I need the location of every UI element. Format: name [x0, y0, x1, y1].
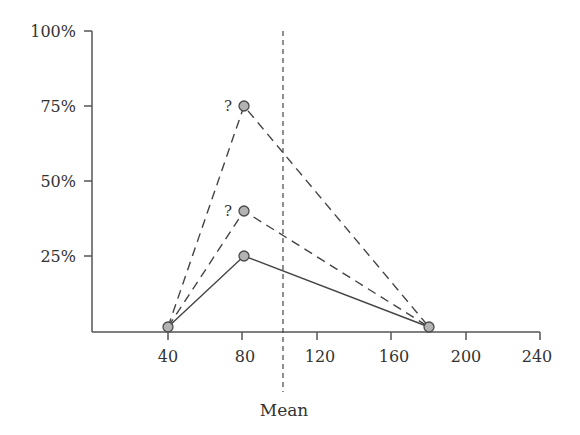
chart: 100% 75% 50% 25% 40 80 120 160 200 240 M… — [0, 0, 580, 435]
y-tick-25: 25% — [40, 247, 76, 266]
x-axis: 40 80 120 160 200 240 — [92, 332, 552, 366]
x-tick-240: 240 — [522, 347, 553, 366]
x-tick-80: 80 — [235, 347, 255, 366]
data-point — [239, 101, 249, 111]
data-point — [239, 251, 249, 261]
x-tick-160: 160 — [379, 347, 410, 366]
x-tick-120: 120 — [305, 347, 336, 366]
y-tick-75: 75% — [40, 97, 76, 116]
x-tick-40: 40 — [158, 347, 178, 366]
mean-label: Mean — [260, 400, 309, 420]
series-dashed-75 — [168, 106, 429, 327]
y-axis: 100% 75% 50% 25% — [30, 22, 92, 332]
question-mark-40: ? — [224, 202, 232, 220]
y-tick-100: 100% — [30, 22, 76, 41]
series-dashed-40 — [168, 211, 429, 327]
data-point — [424, 322, 434, 332]
data-point — [239, 206, 249, 216]
x-tick-200: 200 — [451, 347, 482, 366]
question-mark-75: ? — [224, 97, 232, 115]
series-solid-25 — [168, 256, 429, 327]
data-point — [163, 322, 173, 332]
y-tick-50: 50% — [40, 172, 76, 191]
